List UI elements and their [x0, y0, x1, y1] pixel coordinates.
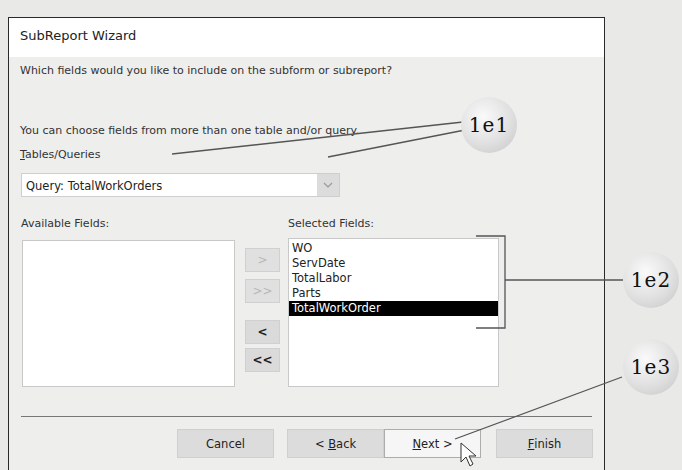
title-bar: SubReport Wizard: [9, 18, 604, 57]
cancel-button[interactable]: Cancel: [177, 429, 274, 458]
back-prefix: <: [315, 437, 328, 451]
callout-1e2: 1e2: [623, 252, 679, 308]
chevron-down-icon[interactable]: [317, 174, 339, 196]
tables-label-rest: ables/Queries: [25, 148, 100, 161]
prompt-text: Which fields would you like to include o…: [20, 64, 392, 77]
list-item[interactable]: TotalLabor: [289, 271, 498, 286]
list-item[interactable]: WO: [289, 241, 498, 256]
back-button[interactable]: < Back: [287, 429, 384, 458]
selected-fields-list[interactable]: WO ServDate TotalLabor Parts TotalWorkOr…: [288, 238, 499, 387]
separator: [21, 416, 592, 417]
remove-all-fields-button[interactable]: <<: [245, 348, 280, 372]
back-accesskey: B: [328, 437, 336, 451]
finish-button[interactable]: Finish: [496, 429, 593, 458]
back-rest: ack: [336, 437, 356, 451]
callout-1e1: 1e1: [461, 97, 517, 153]
finish-rest: inish: [534, 437, 561, 451]
list-item[interactable]: ServDate: [289, 256, 498, 271]
list-item[interactable]: Parts: [289, 286, 498, 301]
hint-text: You can choose fields from more than one…: [20, 124, 359, 137]
finish-accesskey: F: [528, 437, 535, 451]
next-button[interactable]: Next >: [384, 429, 481, 458]
available-fields-list[interactable]: [22, 240, 235, 387]
add-all-fields-button[interactable]: >>: [245, 279, 280, 303]
tables-queries-label: Tables/Queries: [20, 148, 100, 161]
available-fields-label: Available Fields:: [21, 217, 109, 230]
list-item-selected[interactable]: TotalWorkOrder: [289, 301, 498, 316]
next-accesskey: N: [412, 437, 421, 451]
selected-fields-label: Selected Fields:: [288, 217, 374, 230]
dialog-title: SubReport Wizard: [20, 28, 136, 43]
callout-1e3: 1e3: [623, 339, 679, 395]
tables-queries-value: Query: TotalWorkOrders: [26, 179, 162, 193]
tables-queries-dropdown[interactable]: Query: TotalWorkOrders: [21, 173, 340, 197]
subreport-wizard-dialog: SubReport Wizard Which fields would you …: [8, 17, 605, 470]
next-rest: ext >: [421, 437, 452, 451]
remove-field-button[interactable]: <: [245, 320, 280, 344]
add-field-button[interactable]: >: [245, 248, 280, 272]
